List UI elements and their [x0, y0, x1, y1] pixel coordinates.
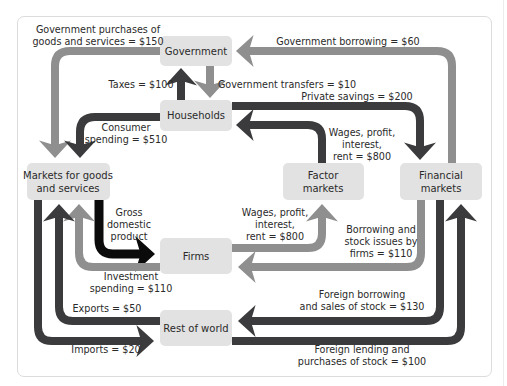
label-foreign-lending-2: purchases of stock = $100	[298, 356, 426, 367]
circular-flow-diagram: Government Households Markets for goods …	[0, 0, 507, 386]
government-label: Government	[165, 46, 227, 57]
node-financial-markets	[400, 163, 482, 200]
label-gdp-3: product	[111, 231, 148, 242]
label-exports: Exports = $50	[73, 303, 142, 314]
label-consumer-spending-2: spending = $510	[85, 134, 168, 145]
households-label: Households	[167, 110, 225, 121]
factor-label-line2: markets	[303, 183, 344, 194]
node-factor-markets	[283, 163, 364, 200]
label-wages-hh-1: Wages, profit,	[329, 127, 395, 138]
label-foreign-lending-1: Foreign lending and	[314, 344, 409, 355]
node-markets-goods-services	[27, 163, 110, 200]
label-foreign-borrowing-2: and sales of stock = $130	[300, 301, 425, 312]
financial-label-line2: markets	[421, 183, 462, 194]
label-borrowing-firms-1: Borrowing and	[346, 224, 416, 235]
label-consumer-spending-1: Consumer	[102, 122, 151, 133]
markets-label-line1: Markets for goods	[23, 170, 113, 181]
label-private-savings: Private savings = $200	[301, 91, 412, 102]
label-gdp-1: Gross	[115, 207, 142, 218]
rest-of-world-label: Rest of world	[163, 323, 228, 334]
label-gov-purchases-1: Government purchases of	[36, 24, 161, 35]
label-taxes: Taxes = $100	[108, 79, 174, 90]
financial-label-line1: Financial	[419, 170, 463, 181]
label-investment-2: spending = $110	[90, 283, 173, 294]
label-wages-hh-3: rent = $800	[333, 151, 391, 162]
label-wages-hh-2: interest,	[342, 139, 382, 150]
label-gov-borrowing: Government borrowing = $60	[276, 36, 419, 47]
label-gdp-2: domestic	[107, 219, 151, 230]
label-foreign-borrowing-1: Foreign borrowing	[319, 289, 406, 300]
label-imports: Imports = $20	[71, 344, 140, 355]
label-borrowing-firms-2: stock issues by	[345, 236, 418, 247]
label-gov-purchases-2: goods and services = $150	[33, 36, 164, 47]
label-wages-firms-1: Wages, profit,	[242, 207, 308, 218]
label-gov-transfers: Government transfers = $10	[218, 79, 356, 90]
label-borrowing-firms-3: firms = $110	[350, 248, 413, 259]
label-wages-firms-2: interest,	[255, 219, 295, 230]
label-investment-1: Investment	[104, 271, 159, 282]
factor-label-line1: Factor	[308, 170, 339, 181]
firms-label: Firms	[183, 251, 210, 262]
markets-label-line2: and services	[36, 183, 99, 194]
label-wages-firms-3: rent = $800	[246, 231, 304, 242]
flow-wages-households	[244, 125, 322, 163]
